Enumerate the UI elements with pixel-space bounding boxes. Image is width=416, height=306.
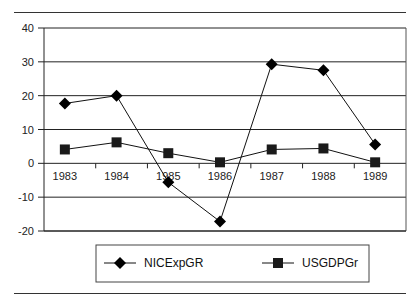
y-tick-label: -10 xyxy=(18,191,34,203)
diamond-marker xyxy=(266,58,278,70)
x-tick-label: 1984 xyxy=(104,170,128,182)
x-tick-label: 1989 xyxy=(363,170,387,182)
diamond-marker xyxy=(214,216,226,228)
y-tick-label: -20 xyxy=(18,225,34,237)
diamond-marker xyxy=(59,97,71,109)
square-marker xyxy=(112,137,122,147)
square-marker xyxy=(318,143,328,153)
legend-square-icon xyxy=(273,258,283,268)
square-marker xyxy=(163,148,173,158)
x-tick-label: 1983 xyxy=(53,170,77,182)
x-tick-label: 1988 xyxy=(311,170,335,182)
diamond-marker xyxy=(317,64,329,76)
square-marker xyxy=(267,144,277,154)
legend-label: NICExpGR xyxy=(144,256,204,270)
legend-label: USGDPGr xyxy=(302,256,358,270)
y-tick-label: 20 xyxy=(22,90,34,102)
square-marker xyxy=(60,144,70,154)
diamond-marker xyxy=(369,138,381,150)
y-tick-label: 40 xyxy=(22,22,34,34)
diamond-marker xyxy=(111,90,123,102)
y-tick-label: 30 xyxy=(22,56,34,68)
y-tick-label: 0 xyxy=(28,157,34,169)
x-tick-label: 1987 xyxy=(259,170,283,182)
y-tick-label: 10 xyxy=(22,124,34,136)
x-tick-label: 1986 xyxy=(208,170,232,182)
square-marker xyxy=(215,157,225,167)
line-chart: 403020100-10-201983198419851986198719881… xyxy=(0,0,416,306)
square-marker xyxy=(370,157,380,167)
